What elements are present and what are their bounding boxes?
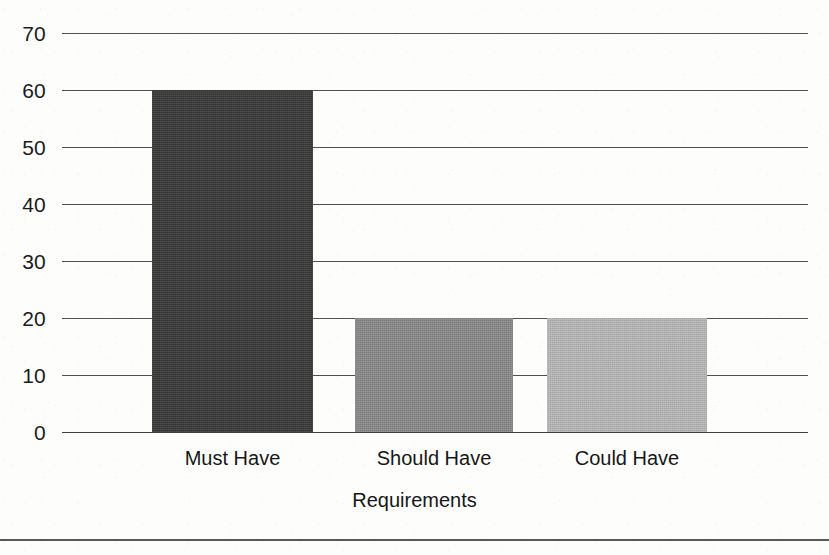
y-tick-label-40: 40 (22, 194, 46, 215)
x-axis-category-labels: Must HaveShould HaveCould Have (62, 448, 808, 474)
bar-fill-texture (355, 318, 513, 432)
gridline-0 (62, 432, 808, 433)
y-tick-label-70: 70 (22, 23, 46, 44)
x-category-label-2: Could Have (547, 448, 707, 468)
plot-area (62, 33, 808, 432)
y-tick-label-30: 30 (22, 251, 46, 272)
bar-should-have[interactable] (355, 318, 513, 432)
bar-must-have[interactable] (152, 90, 313, 432)
bar-fill-texture (152, 90, 313, 432)
y-tick-label-50: 50 (22, 137, 46, 158)
page-divider-rule (0, 539, 829, 541)
y-tick-label-60: 60 (22, 80, 46, 101)
x-category-label-1: Should Have (355, 448, 513, 468)
bar-could-have[interactable] (547, 318, 707, 432)
y-tick-label-10: 10 (22, 365, 46, 386)
x-axis-title: Requirements (0, 489, 829, 512)
y-tick-label-20: 20 (22, 308, 46, 329)
x-category-label-0: Must Have (152, 448, 313, 468)
y-axis-tick-labels: 010203040506070 (0, 33, 46, 432)
bar-series (62, 33, 808, 432)
bar-fill-texture (547, 318, 707, 432)
y-tick-label-0: 0 (34, 422, 46, 443)
bar-chart-figure: 010203040506070 Must HaveShould HaveCoul… (0, 0, 829, 555)
